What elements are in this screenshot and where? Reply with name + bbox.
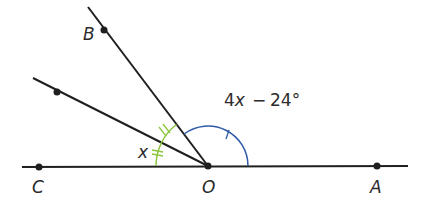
- geometry-diagram: B C O A x 4x − 24°: [0, 0, 425, 207]
- line-ca: [22, 166, 408, 167]
- point-middle-ray: [54, 89, 61, 96]
- label-angle-minus: −: [252, 90, 266, 110]
- label-angle-4x: 4x: [224, 90, 246, 110]
- label-a: A: [369, 177, 382, 197]
- label-o: O: [202, 177, 215, 197]
- point-c: [36, 164, 43, 171]
- label-angle-x: x: [137, 142, 149, 162]
- label-angle-const: 24°: [270, 90, 300, 110]
- double-tick-upper: [159, 124, 170, 136]
- point-o: [205, 163, 212, 170]
- point-a: [374, 163, 381, 170]
- label-c: C: [32, 177, 44, 197]
- point-b: [101, 27, 108, 34]
- label-b: B: [83, 24, 95, 44]
